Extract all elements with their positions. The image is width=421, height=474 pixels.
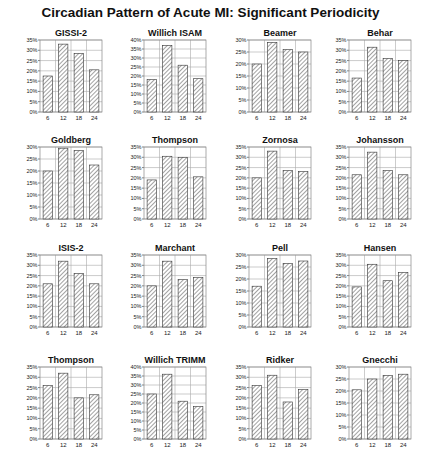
- bar: [163, 45, 172, 112]
- y-tick-label: 20%: [235, 395, 246, 401]
- x-tick-label: 12: [369, 115, 376, 121]
- x-tick-label: 18: [284, 222, 291, 228]
- y-tick-label: 25%: [130, 165, 141, 171]
- bar: [252, 178, 261, 219]
- y-tick-label: 0%: [339, 109, 347, 115]
- y-tick-label: 10%: [26, 88, 37, 94]
- y-tick-label: 35%: [26, 364, 37, 370]
- bar: [299, 52, 308, 112]
- y-tick-label: 20%: [335, 175, 346, 181]
- y-tick-label: 15%: [130, 185, 141, 191]
- bar: [74, 151, 83, 219]
- x-tick-label: 6: [355, 442, 359, 448]
- y-tick-label: 35%: [130, 252, 141, 258]
- y-tick-label: 10%: [130, 418, 141, 424]
- y-tick-label: 20%: [235, 61, 246, 67]
- y-tick-label: 20%: [335, 68, 346, 74]
- x-tick-label: 18: [75, 330, 82, 336]
- y-tick-label: 30%: [335, 262, 346, 268]
- y-tick-label: 20%: [130, 73, 141, 79]
- bar: [368, 47, 377, 112]
- y-tick-label: 30%: [26, 47, 37, 53]
- bar: [194, 278, 203, 327]
- x-tick-label: 6: [355, 330, 359, 336]
- y-tick-label: 25%: [235, 165, 246, 171]
- bar: [147, 180, 156, 219]
- bar: [283, 171, 292, 219]
- bar: [252, 286, 261, 327]
- bar: [59, 261, 68, 327]
- bar: [74, 53, 83, 112]
- x-tick-label: 12: [369, 442, 376, 448]
- y-tick-label: 30%: [26, 144, 37, 150]
- y-tick-label: 10%: [130, 195, 141, 201]
- bar: [299, 390, 308, 439]
- y-tick-label: 30%: [235, 252, 246, 258]
- y-tick-label: 15%: [235, 185, 246, 191]
- y-tick-label: 35%: [335, 252, 346, 258]
- y-tick-label: 10%: [26, 303, 37, 309]
- y-tick-label: 15%: [335, 185, 346, 191]
- bar: [163, 261, 172, 327]
- x-tick-label: 12: [269, 330, 276, 336]
- bar: [147, 286, 156, 327]
- x-tick-label: 24: [195, 115, 202, 121]
- y-tick-label: 10%: [235, 300, 246, 306]
- bar: [368, 152, 377, 219]
- bar: [383, 59, 392, 112]
- x-tick-label: 18: [75, 442, 82, 448]
- y-tick-label: 0%: [134, 436, 142, 442]
- y-tick-label: 15%: [130, 409, 141, 415]
- x-tick-label: 18: [384, 115, 391, 121]
- x-tick-label: 6: [255, 115, 259, 121]
- y-tick-label: 25%: [26, 156, 37, 162]
- y-tick-label: 10%: [335, 412, 346, 418]
- bar: [194, 79, 203, 112]
- y-tick-label: 20%: [26, 68, 37, 74]
- y-tick-label: 5%: [30, 426, 38, 432]
- chart-title: Thompson: [152, 135, 198, 145]
- x-tick-label: 24: [91, 115, 98, 121]
- x-tick-label: 24: [400, 115, 407, 121]
- x-tick-label: 18: [284, 330, 291, 336]
- x-tick-label: 6: [255, 330, 259, 336]
- y-tick-label: 5%: [339, 424, 347, 430]
- y-tick-label: 5%: [134, 100, 142, 106]
- y-tick-label: 30%: [235, 37, 246, 43]
- y-tick-label: 25%: [130, 273, 141, 279]
- y-tick-label: 0%: [30, 109, 38, 115]
- y-tick-label: 10%: [335, 88, 346, 94]
- y-tick-label: 30%: [235, 374, 246, 380]
- y-tick-label: 35%: [235, 364, 246, 370]
- y-tick-label: 35%: [335, 37, 346, 43]
- y-tick-label: 30%: [335, 364, 346, 370]
- y-tick-label: 25%: [26, 273, 37, 279]
- chart-title: Zornosa: [262, 135, 298, 145]
- bar: [252, 386, 261, 439]
- x-tick-label: 12: [60, 222, 67, 228]
- y-tick-label: 0%: [30, 324, 38, 330]
- y-tick-label: 15%: [335, 400, 346, 406]
- y-tick-label: 30%: [235, 154, 246, 160]
- y-tick-label: 0%: [239, 216, 247, 222]
- bar: [268, 151, 277, 219]
- y-tick-label: 5%: [339, 99, 347, 105]
- x-tick-label: 12: [269, 442, 276, 448]
- bar: [368, 264, 377, 327]
- bar: [178, 157, 187, 219]
- x-tick-label: 24: [400, 222, 407, 228]
- bar: [383, 281, 392, 327]
- bar: [43, 76, 52, 112]
- y-tick-label: 30%: [335, 154, 346, 160]
- bar: [90, 395, 99, 439]
- y-tick-label: 0%: [339, 436, 347, 442]
- x-tick-label: 12: [60, 115, 67, 121]
- y-tick-label: 0%: [239, 324, 247, 330]
- bar: [74, 274, 83, 327]
- y-tick-label: 25%: [235, 264, 246, 270]
- x-tick-label: 6: [255, 442, 259, 448]
- bar: [352, 390, 361, 439]
- bar: [252, 64, 261, 112]
- bar: [299, 261, 308, 327]
- x-tick-label: 24: [91, 442, 98, 448]
